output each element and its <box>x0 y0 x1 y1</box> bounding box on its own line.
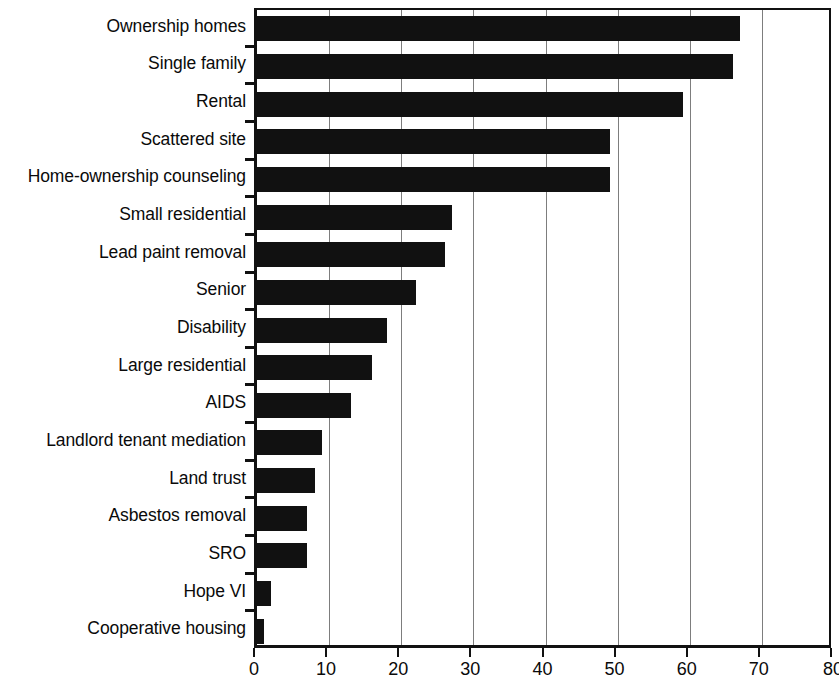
x-axis-tick-label: 60 <box>677 660 697 678</box>
y-axis-tick <box>245 496 254 499</box>
y-axis-tick <box>245 158 254 161</box>
bar <box>257 581 271 606</box>
y-axis-tick <box>245 271 254 274</box>
y-axis-label: Land trust <box>0 470 246 488</box>
y-axis-tick <box>245 346 254 349</box>
y-axis-tick <box>245 195 254 198</box>
y-axis-tick <box>245 609 254 612</box>
y-axis-label: AIDS <box>0 394 246 412</box>
y-axis-label: Single family <box>0 55 246 73</box>
x-axis-tick <box>758 648 760 657</box>
y-axis-tick <box>245 45 254 48</box>
x-axis-tick <box>686 648 688 657</box>
x-axis-tick <box>397 648 399 657</box>
y-axis-tick <box>245 120 254 123</box>
y-axis-label: Senior <box>0 281 246 299</box>
y-axis-label: Lead paint removal <box>0 244 246 262</box>
bar <box>257 16 740 41</box>
y-axis-label: Disability <box>0 319 246 337</box>
y-axis-label: Home-ownership counseling <box>0 168 246 186</box>
y-axis-tick <box>245 82 254 85</box>
x-axis-tick-label: 20 <box>388 660 408 678</box>
bar <box>257 129 610 154</box>
y-axis-label: SRO <box>0 545 246 563</box>
x-axis-tick-label: 70 <box>749 660 769 678</box>
x-axis-tick <box>542 648 544 657</box>
y-axis-label: Small residential <box>0 206 246 224</box>
bar <box>257 242 445 267</box>
y-axis-tick <box>245 421 254 424</box>
bar <box>257 280 416 305</box>
bar <box>257 92 683 117</box>
y-axis-label: Cooperative housing <box>0 620 246 638</box>
y-axis-label: Ownership homes <box>0 18 246 36</box>
bar <box>257 430 322 455</box>
bar <box>257 619 264 644</box>
bar <box>257 506 307 531</box>
bar <box>257 468 315 493</box>
x-axis-tick-label: 50 <box>605 660 625 678</box>
x-axis-tick-label: 30 <box>460 660 480 678</box>
y-axis-category-labels: Ownership homesSingle familyRentalScatte… <box>0 8 246 648</box>
y-axis-label: Asbestos removal <box>0 507 246 525</box>
x-axis-tick <box>830 648 832 657</box>
y-axis-label: Scattered site <box>0 131 246 149</box>
x-axis-tick-label: 80 <box>823 660 839 678</box>
y-axis-tick <box>245 459 254 462</box>
x-axis-tick <box>469 648 471 657</box>
y-axis-label: Hope VI <box>0 583 246 601</box>
y-axis-tick <box>245 534 254 537</box>
plot-area <box>254 8 831 648</box>
x-axis-tick-label: 10 <box>316 660 336 678</box>
x-axis-tick <box>253 648 255 657</box>
x-axis-tick-labels: 01020304050607080 <box>0 660 837 688</box>
x-axis-tick-label: 40 <box>532 660 552 678</box>
y-axis-label: Rental <box>0 93 246 111</box>
x-axis-tick-label: 0 <box>249 660 259 678</box>
bar <box>257 205 452 230</box>
x-axis-tick <box>614 648 616 657</box>
bar <box>257 355 372 380</box>
bar <box>257 393 351 418</box>
bar <box>257 543 307 568</box>
gridline <box>762 10 763 645</box>
y-axis-label: Landlord tenant mediation <box>0 432 246 450</box>
gridline <box>690 10 691 645</box>
bar <box>257 318 387 343</box>
y-axis-tick <box>245 233 254 236</box>
y-axis-tick <box>245 383 254 386</box>
y-axis-label: Large residential <box>0 357 246 375</box>
y-axis-tick <box>245 308 254 311</box>
bar <box>257 54 733 79</box>
bar <box>257 167 610 192</box>
x-axis-tick <box>325 648 327 657</box>
y-axis-tick <box>245 572 254 575</box>
